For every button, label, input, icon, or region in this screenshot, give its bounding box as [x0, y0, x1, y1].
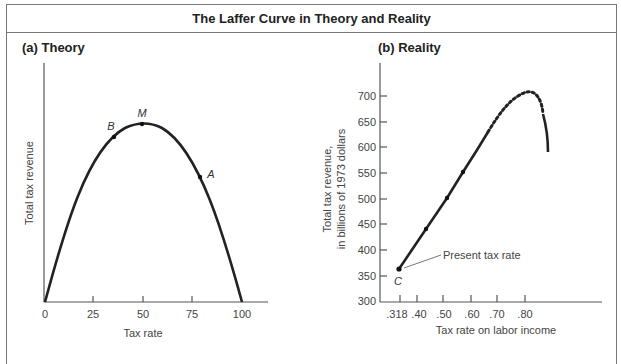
panel-b-xtick-318: .318: [386, 308, 407, 320]
panel-b-xtick-60: .60: [464, 308, 479, 320]
panel-a-ylabel: Total tax revenue: [23, 141, 35, 225]
panel-b-x-ticks: [400, 295, 525, 302]
panel-b-ytick-450: 450: [358, 218, 376, 230]
panel-b-ytick-600: 600: [358, 141, 376, 153]
panel-b-ylabel-line1: Total tax revenue,: [321, 146, 333, 233]
panel-b-ytick-400: 400: [358, 244, 376, 256]
point-c-marker: [396, 266, 401, 271]
panel-b-chart: 300 350 400 450 500 550 600 650 700 .318…: [321, 63, 602, 336]
panel-b-revenue-curve-dotted: [488, 92, 543, 132]
panel-b-ytick-350: 350: [358, 270, 376, 282]
panel-b-ytick-700: 700: [358, 90, 376, 102]
point-b-label: B: [107, 120, 114, 132]
panel-a-xtick-3: 75: [186, 308, 198, 320]
panel-b-y-ticks: [380, 96, 387, 276]
curve-dot: [424, 227, 428, 231]
curve-dot: [445, 196, 449, 200]
panel-b-revenue-curve-drop: [543, 114, 548, 152]
present-tax-rate-annotation: Present tax rate: [443, 249, 521, 261]
panel-b-xtick-70: .70: [489, 308, 504, 320]
panel-b-ytick-550: 550: [358, 167, 376, 179]
point-a-marker: [198, 175, 202, 179]
panel-b-ytick-650: 650: [358, 116, 376, 128]
point-m-marker: [140, 122, 144, 126]
panel-a-xtick-1: 25: [87, 308, 99, 320]
panel-b-xlabel: Tax rate on labor income: [436, 324, 556, 336]
panel-b-xtick-40: .40: [411, 308, 426, 320]
panel-a-xlabel: Tax rate: [123, 327, 162, 339]
point-a-label: A: [206, 168, 214, 180]
panel-b-ytick-500: 500: [358, 193, 376, 205]
panel-b-ytick-300: 300: [358, 295, 376, 307]
annotation-leader-line: [404, 255, 441, 268]
point-b-marker: [112, 135, 116, 139]
panel-a-xtick-0: 0: [42, 308, 48, 320]
panel-a-xtick-4: 100: [233, 308, 251, 320]
panel-a-chart: 0 25 50 75 100 Tax rate Total tax revenu…: [23, 63, 268, 339]
panel-b-xtick-50: .50: [436, 308, 451, 320]
point-m-label: M: [137, 107, 147, 119]
curve-dot: [461, 170, 465, 174]
panel-a-laffer-curve: [45, 124, 242, 303]
point-c-label: C: [394, 275, 402, 287]
panel-b-xtick-80: .80: [517, 308, 532, 320]
panel-b-ylabel-line2: in billions of 1973 dollars: [335, 128, 347, 249]
panel-a-xtick-2: 50: [137, 308, 149, 320]
panel-a-x-ticks: [93, 296, 192, 302]
